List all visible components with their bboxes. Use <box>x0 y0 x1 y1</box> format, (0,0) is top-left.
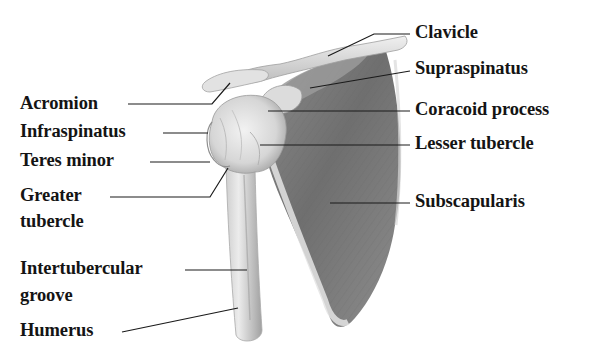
label-clavicle: Clavicle <box>415 22 478 43</box>
humeral-head <box>209 95 286 173</box>
shoulder-anatomy-diagram: Acromion Infraspinatus Teres minor Great… <box>0 0 594 363</box>
label-humerus: Humerus <box>20 320 93 341</box>
label-greater-tubercle-line1: Greater <box>20 185 82 206</box>
label-acromion: Acromion <box>20 93 98 114</box>
label-intertubercular-groove-line2: groove <box>20 285 73 306</box>
acromion-bone <box>202 70 268 92</box>
shoulder-illustration <box>0 0 594 363</box>
label-greater-tubercle-line2: tubercle <box>20 211 84 232</box>
label-coracoid-process: Coracoid process <box>415 99 549 120</box>
label-subscapularis: Subscapularis <box>415 191 525 212</box>
label-lesser-tubercle: Lesser tubercle <box>415 133 534 154</box>
label-infraspinatus: Infraspinatus <box>20 121 126 142</box>
label-supraspinatus: Supraspinatus <box>415 58 528 79</box>
label-teres-minor: Teres minor <box>20 150 114 171</box>
label-intertubercular-groove-line1: Intertubercular <box>20 258 143 279</box>
